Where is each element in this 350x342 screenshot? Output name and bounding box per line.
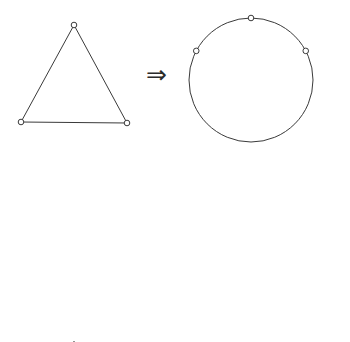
polyhedron-figure xyxy=(0,330,185,342)
circle-outline xyxy=(189,18,313,142)
triangle-outline xyxy=(21,25,127,123)
circle-top-marker xyxy=(248,15,254,21)
circle-lower-right-marker xyxy=(303,48,309,54)
triangle-vertex-apex-marker xyxy=(71,22,77,28)
triangle-vertex-bottom-right-marker xyxy=(124,120,130,126)
circle-lower-left-marker xyxy=(193,48,199,54)
figure-root: ⇒ ⇒ xyxy=(0,0,350,342)
triangle-vertex-bottom-left-marker xyxy=(18,119,24,125)
double-right-arrow-icon: ⇒ xyxy=(146,62,167,87)
row-triangle-to-circle: ⇒ xyxy=(0,0,350,165)
circle-figure xyxy=(185,0,350,165)
row-polyhedron-to-sphere: ⇒ xyxy=(0,165,350,342)
sphere-figure xyxy=(185,330,350,342)
